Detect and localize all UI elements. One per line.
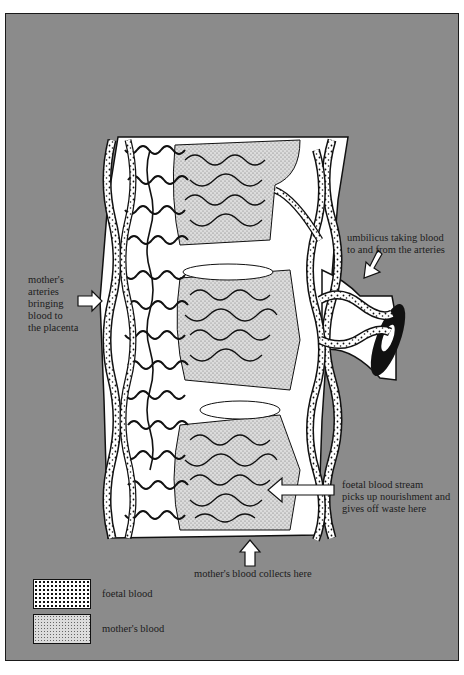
- label-mothers-arteries: mother's arteries bringing blood to the …: [28, 274, 78, 334]
- label-umbilicus: umbilicus taking blood to and from the a…: [347, 232, 445, 256]
- mothers-collects-arrow: [240, 540, 260, 566]
- label-foetal-stream: foetal blood stream picks up nourishment…: [342, 479, 450, 515]
- label-mothers-collects: mother's blood collects here: [194, 568, 312, 580]
- legend-label-mothers-blood: mother's blood: [102, 623, 164, 635]
- legend-label-foetal-blood: foetal blood: [102, 588, 152, 600]
- legend-swatch-foetal-blood: [33, 579, 91, 609]
- mothers-arteries-arrow: [78, 291, 102, 311]
- legend-swatch-mothers-blood: [33, 614, 91, 644]
